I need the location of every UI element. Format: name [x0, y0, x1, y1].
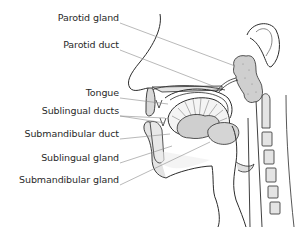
label-parotid-duct: Parotid duct: [63, 39, 119, 50]
label-sublingual-ducts: Sublingual ducts: [42, 105, 119, 116]
face-profile-outline: [128, 14, 160, 90]
label-parotid-gland: Parotid gland: [58, 12, 119, 23]
jaw-neck-outline: [166, 166, 219, 227]
label-submandibular-gland: Submandibular gland: [19, 174, 119, 185]
submandibular-gland-shape: [208, 123, 239, 145]
cervical-spine: [262, 94, 280, 214]
label-tongue: Tongue: [86, 87, 119, 98]
leader-tongue: [120, 98, 168, 104]
parotid-gland-shape: [234, 56, 263, 103]
parotid-duct-shape: [216, 78, 238, 93]
salivary-gland-diagram: Parotid gland Parotid duct Tongue Sublin…: [0, 0, 296, 227]
label-submandibular-duct: Submandibular duct: [25, 128, 120, 139]
leader-parotid-gland: [120, 23, 235, 66]
label-sublingual-gland: Sublingual gland: [41, 152, 119, 163]
